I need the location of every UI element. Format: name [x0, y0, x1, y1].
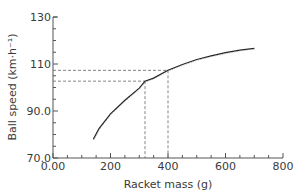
y-axis-label: Ball speed (km·h⁻¹): [6, 34, 19, 141]
x-tick-label: 400: [158, 160, 179, 173]
chart-container: 0.0020040060080070.090.0110130 Racket ma…: [0, 0, 303, 195]
tick-labels: 0.0020040060080070.090.0110130: [27, 11, 294, 173]
data-series: [93, 48, 255, 140]
series-line: [93, 48, 254, 139]
x-tick-label: 200: [100, 160, 121, 173]
x-tick-label: 800: [273, 160, 294, 173]
x-axis-label: Racket mass (g): [124, 178, 213, 191]
y-tick-label: 130: [30, 11, 51, 24]
y-tick-label: 70.0: [27, 152, 52, 165]
y-tick-label: 90.0: [27, 105, 52, 118]
series-dotted-line: [94, 49, 255, 140]
y-tick-label: 110: [30, 58, 51, 71]
x-tick-label: 600: [215, 160, 236, 173]
line-chart: 0.0020040060080070.090.0110130 Racket ma…: [0, 0, 303, 195]
